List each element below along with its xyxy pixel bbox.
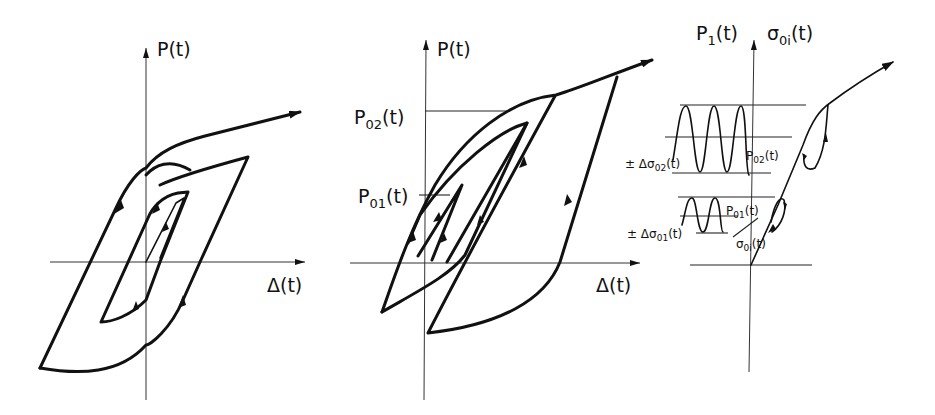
panel-2: P(t) Δ(t) P02(t) P01(t) [350,38,652,400]
arrow-marker [132,301,139,312]
sigma-curve-label: σ0i(t) [736,237,766,253]
stress-path [751,62,893,265]
p02-label: P02(t) [746,149,779,165]
p02-label: P02(t) [354,106,404,132]
x-axis-label: Δ(t) [267,274,302,296]
y-axis-label: P(t) [437,38,471,60]
stress-loop-upper [804,105,828,169]
p1-axis-label: P1(t) [696,22,738,48]
p01-label: P01(t) [726,204,759,220]
amplitude-label-02: ± Δσ02(t) [625,157,680,173]
signal-wave-p02 [673,106,749,175]
leader-line [733,218,758,237]
sigma-axis-label: σ0i(t) [767,22,813,48]
arrow-marker [802,153,807,160]
y-axis [424,40,426,400]
outer-loop-right [40,157,248,372]
y-axis-label: P(t) [157,38,191,60]
amplitude-label-01: ± Δσ01(t) [627,227,682,243]
arrow-marker [783,202,787,210]
p01-label: P01(t) [358,185,408,211]
panel-3: P1(t) σ0i(t) ± Δσ02(t) ± Δσ01(t) P02(t) … [625,22,893,372]
outer-loop-right [428,77,617,333]
outer-loop-upper [146,164,190,175]
panel-1: P(t) Δ(t) [40,38,305,400]
arrow-marker [564,194,572,206]
hysteresis-figure: P(t) Δ(t) P(t) Δ(t) P02(t) P01(t) [0,0,935,415]
x-axis-label: Δ(t) [596,274,631,296]
signal-wave-p01 [682,198,723,232]
